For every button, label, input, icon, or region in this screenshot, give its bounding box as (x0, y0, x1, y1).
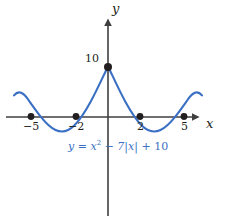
plot-canvas (0, 0, 228, 224)
equation-term1-exponent: 2 (97, 139, 101, 147)
root-point-pos5 (181, 113, 188, 120)
function-graph-figure: x y 10 −5 −2 2 5 y = x2 − 7|x| + 10 (0, 0, 228, 224)
equation-equals: = (78, 140, 87, 153)
root-point-neg2 (73, 113, 80, 120)
x-tick-label-neg5: −5 (23, 121, 39, 132)
equation-plus-operator: + (141, 140, 150, 153)
x-axis-label: x (206, 117, 213, 130)
root-point-neg5 (28, 113, 35, 120)
x-tick-label-pos5: 5 (181, 121, 188, 132)
x-tick-label-neg2: −2 (68, 121, 84, 132)
equation-annotation: y = x2 − 7|x| + 10 (68, 141, 168, 152)
equation-minus-operator: − (105, 140, 114, 153)
y-intercept-tick-label: 10 (85, 53, 99, 64)
equation-constant: 10 (154, 140, 168, 153)
x-tick-label-pos2: 2 (137, 121, 144, 132)
root-point-pos2 (137, 113, 144, 120)
equation-lhs: y (68, 140, 74, 153)
y-axis-label: y (112, 2, 119, 15)
y-intercept-point (104, 63, 112, 71)
equation-term2: 7|x| (117, 140, 138, 153)
